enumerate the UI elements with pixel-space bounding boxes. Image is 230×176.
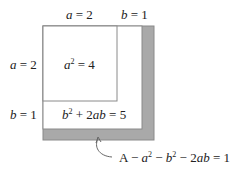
equals: = (73, 7, 87, 22)
minus-term: − 2 (176, 150, 196, 165)
value: 2 (86, 7, 93, 22)
equals: = (17, 107, 31, 122)
left-label-b: b = 1 (10, 108, 37, 122)
minus: − (152, 150, 166, 165)
value: 1 (141, 7, 148, 22)
value: = 1 (210, 150, 230, 165)
left-label-a: a = 2 (10, 58, 37, 72)
var-ab: ab (93, 107, 106, 122)
var-ab: ab (197, 150, 210, 165)
equals: = (17, 57, 31, 72)
pointer-arrow (97, 139, 112, 157)
minus: − (128, 150, 142, 165)
remainder-label: A − a2 − b2 − 2ab = 1 (119, 151, 230, 165)
l-shape-label: b2 + 2ab = 5 (62, 108, 126, 122)
value: = 4 (75, 57, 95, 72)
var-A: A (119, 150, 128, 165)
equals: = (128, 7, 142, 22)
top-label-a: a = 2 (66, 8, 93, 22)
value: 2 (30, 57, 37, 72)
value: = 5 (106, 107, 126, 122)
plus-term: + 2 (73, 107, 93, 122)
value: 1 (30, 107, 37, 122)
a-squared-label: a2 = 4 (64, 58, 95, 72)
top-label-b: b = 1 (121, 8, 148, 22)
